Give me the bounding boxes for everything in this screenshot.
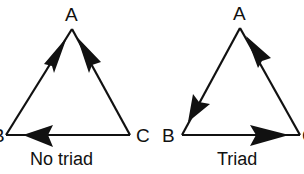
no-triad-graph (6, 29, 130, 147)
vertex-label-b: B (0, 126, 5, 145)
vertex-label-c: C (302, 126, 304, 145)
diagram-caption: No triad (30, 150, 93, 168)
vertex-label-a: A (65, 5, 78, 24)
diagram-caption: Triad (217, 150, 257, 168)
vertex-label-b: B (162, 126, 175, 145)
arrow-b-to-c-icon (250, 125, 289, 146)
vertex-label-c: C (136, 126, 150, 145)
triad-diagrams (0, 0, 304, 174)
arrow-c-to-a-icon (246, 36, 271, 68)
triad-graph (182, 28, 300, 146)
arrow-a-to-b-icon (188, 94, 210, 122)
vertex-label-a: A (233, 4, 246, 23)
arrow-c-to-a-icon (77, 37, 101, 73)
edge-c-a (240, 28, 300, 135)
